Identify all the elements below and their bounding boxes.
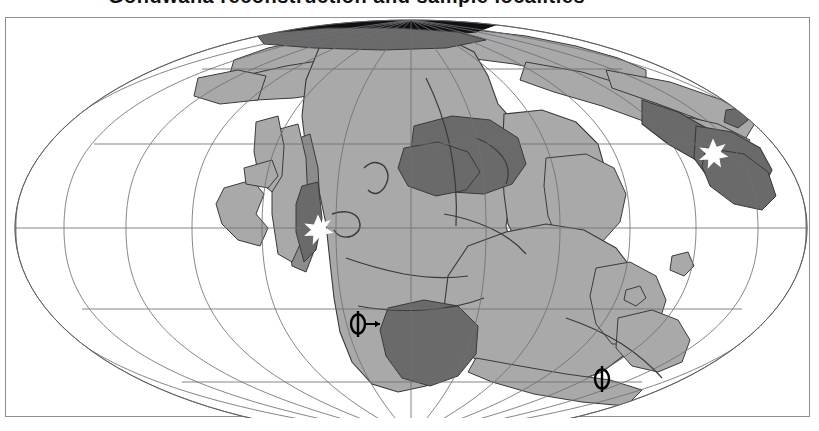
figure-title-cropped: Gondwana reconstruction and sample local… <box>0 0 819 14</box>
figure-title-text: Gondwana reconstruction and sample local… <box>108 0 585 8</box>
figure-canvas: Gondwana reconstruction and sample local… <box>0 0 819 431</box>
paleogeographic-map <box>6 18 811 418</box>
map-frame <box>5 17 810 417</box>
